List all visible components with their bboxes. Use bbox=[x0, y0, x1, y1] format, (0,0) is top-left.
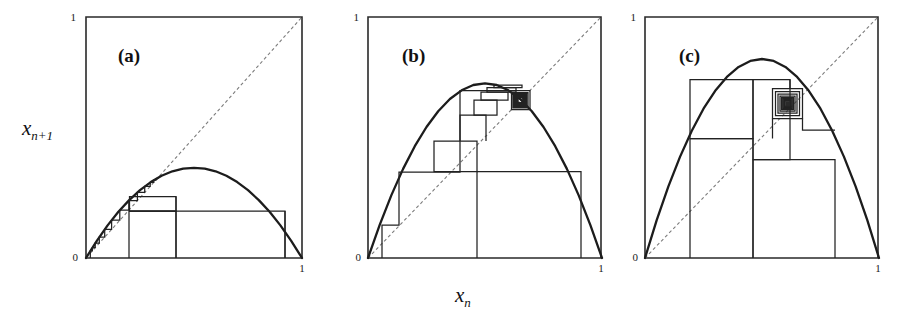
figure-root: xn+1 xn 1 0 1 (a) 1 0 1 bbox=[0, 0, 904, 315]
panel-a-origin-tick: 0 bbox=[73, 251, 79, 263]
panel-b-cobweb-outer-4 bbox=[474, 100, 497, 115]
panel-b-cobweb-outer-3 bbox=[460, 115, 486, 141]
panel-a-cobweb-box-1 bbox=[130, 197, 177, 212]
panel-b-cobweb-outer-5 bbox=[481, 92, 508, 100]
cobweb-figure-svg: xn+1 xn 1 0 1 (a) 1 0 1 bbox=[0, 0, 904, 315]
panel-c-cobweb-outer-2 bbox=[690, 80, 753, 139]
panel-b-cobweb-outer-2 bbox=[434, 141, 477, 172]
panel-a-tag: (a) bbox=[118, 45, 140, 67]
panel-a-map-curve bbox=[86, 168, 302, 258]
panel-c-xtick-1: 1 bbox=[875, 262, 881, 274]
panel-b-tag: (b) bbox=[402, 45, 425, 67]
panel-b-xtick-1: 1 bbox=[598, 262, 604, 274]
x-axis-label: xn bbox=[454, 283, 471, 310]
panel-c-cobweb-outer-3 bbox=[753, 160, 835, 259]
panel-b-cobweb-outer-1 bbox=[477, 172, 581, 259]
panel-c-tag: (c) bbox=[679, 45, 700, 67]
y-axis-label: xn+1 bbox=[21, 116, 53, 143]
panel-c: 1 0 1 (c) bbox=[631, 11, 881, 274]
panel-a: 1 0 1 (a) bbox=[71, 11, 305, 274]
panel-a-cobweb bbox=[90, 178, 158, 258]
panel-b-ytick-1: 1 bbox=[354, 11, 360, 23]
panel-c-origin-tick: 0 bbox=[633, 251, 639, 263]
panel-b-map-curve bbox=[368, 83, 602, 258]
panel-a-cobweb-box-2 bbox=[130, 211, 286, 258]
panel-a-xtick-1: 1 bbox=[299, 262, 305, 274]
panel-c-map-curve bbox=[645, 59, 879, 258]
panel-b: 1 0 1 (b) bbox=[354, 11, 604, 274]
panel-c-cobweb-nest-core bbox=[785, 101, 790, 106]
panel-a-cobweb-outer bbox=[129, 211, 176, 258]
panel-a-ytick-1: 1 bbox=[71, 11, 77, 23]
panel-b-cobweb bbox=[382, 91, 530, 259]
panel-b-origin-tick: 0 bbox=[356, 251, 362, 263]
panel-c-ytick-1: 1 bbox=[631, 11, 637, 23]
